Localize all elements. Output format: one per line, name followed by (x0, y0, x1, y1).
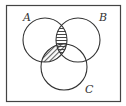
label-c: C (85, 83, 94, 96)
label-a: A (22, 11, 31, 24)
label-b: B (98, 11, 107, 24)
venn-diagram: A B C (0, 0, 126, 106)
